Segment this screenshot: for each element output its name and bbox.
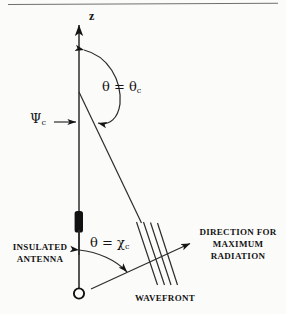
- direction-line-3: RADIATION: [196, 250, 280, 262]
- insulated-antenna-label: INSULATED ANTENNA: [8, 241, 72, 265]
- theta-chi-text: θ = χ: [90, 235, 125, 250]
- theta-critical-text: θ = θ: [102, 79, 137, 94]
- psi-symbol-text: Ψ: [30, 111, 41, 126]
- direction-line-2: MAXIMUM: [196, 238, 280, 250]
- wavefront-label: WAVEFRONT: [135, 293, 195, 303]
- direction-line-1: DIRECTION FOR: [196, 226, 280, 238]
- direction-maximum-radiation-label: DIRECTION FOR MAXIMUM RADIATION: [196, 226, 280, 262]
- insulated-antenna-line-2: ANTENNA: [8, 253, 72, 265]
- critical-ray-line: [79, 92, 142, 223]
- theta-chi-subscript: c: [125, 242, 129, 251]
- antenna-radiation-diagram: z θ = θc Ψc θ = χc INSULATED ANTENNA DIR…: [0, 0, 286, 314]
- diagram-canvas: [0, 0, 286, 314]
- antenna-insulation-block: [75, 211, 83, 233]
- antenna-feed-circle: [74, 288, 84, 298]
- insulated-antenna-line-1: INSULATED: [8, 241, 72, 253]
- theta-chi-label: θ = χc: [90, 236, 129, 252]
- wavefront-lines: [137, 222, 178, 285]
- psi-subscript: c: [41, 118, 45, 127]
- theta-critical-label: θ = θc: [102, 80, 141, 96]
- psi-critical-label: Ψc: [30, 112, 46, 128]
- z-axis-label: z: [89, 10, 94, 23]
- page-top-rule: [8, 3, 278, 4]
- theta-critical-subscript: c: [137, 86, 141, 95]
- theta-chi-arc: [79, 250, 127, 272]
